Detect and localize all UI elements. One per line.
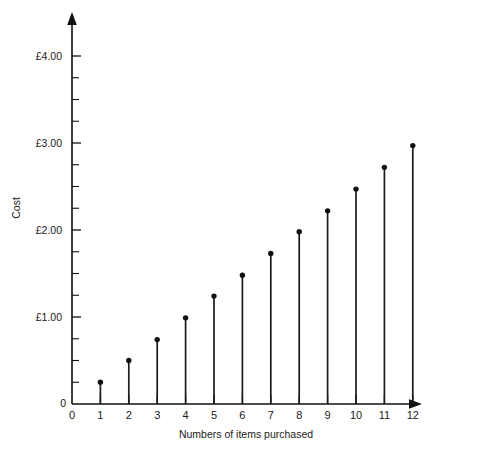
y-tick-label-3: £4.00 <box>36 50 62 62</box>
y-axis-title: Cost <box>10 197 22 219</box>
data-point-5 <box>211 293 216 298</box>
chart-plot-area: £1.00£2.00£3.00£4.00 0123456789101112 0 … <box>0 0 480 451</box>
x-tick-label-9: 9 <box>325 409 331 421</box>
y-tick-label-0: £1.00 <box>36 311 62 323</box>
x-axis-tick-labels: 0123456789101112 <box>69 409 419 421</box>
data-point-1 <box>98 380 103 385</box>
y-axis-tick-labels: £1.00£2.00£3.00£4.00 <box>36 50 62 323</box>
y-tick-label-1: £2.00 <box>36 224 62 236</box>
x-axis-arrow-icon <box>409 399 422 409</box>
x-tick-label-1: 1 <box>97 409 103 421</box>
cost-vs-items-chart: £1.00£2.00£3.00£4.00 0123456789101112 0 … <box>0 0 480 451</box>
x-tick-label-6: 6 <box>239 409 245 421</box>
x-tick-label-10: 10 <box>350 409 362 421</box>
data-point-12 <box>410 143 415 148</box>
x-tick-label-4: 4 <box>183 409 189 421</box>
x-tick-label-12: 12 <box>407 409 419 421</box>
data-point-11 <box>382 165 387 170</box>
data-point-3 <box>155 337 160 342</box>
x-tick-label-8: 8 <box>296 409 302 421</box>
y-axis-origin-label: 0 <box>60 397 66 409</box>
x-tick-label-2: 2 <box>126 409 132 421</box>
data-point-4 <box>183 315 188 320</box>
data-point-6 <box>240 273 245 278</box>
data-point-markers <box>98 143 416 385</box>
data-stems <box>100 146 412 404</box>
x-axis-title: Numbers of items purchased <box>179 428 313 440</box>
data-point-2 <box>126 358 131 363</box>
data-point-10 <box>353 186 358 191</box>
x-tick-label-11: 11 <box>379 409 390 421</box>
x-tick-label-5: 5 <box>211 409 217 421</box>
data-point-9 <box>325 208 330 213</box>
x-tick-label-3: 3 <box>154 409 160 421</box>
x-tick-label-0: 0 <box>69 409 75 421</box>
y-axis-arrow-icon <box>67 12 77 25</box>
data-point-8 <box>297 229 302 234</box>
x-axis-ticks <box>100 395 412 404</box>
data-point-7 <box>268 251 273 256</box>
y-tick-label-2: £3.00 <box>36 137 62 149</box>
x-tick-label-7: 7 <box>268 409 274 421</box>
